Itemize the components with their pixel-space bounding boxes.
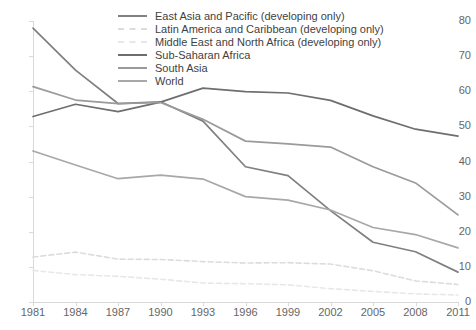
legend-item-3[interactable]: Sub-Saharan Africa <box>118 49 384 61</box>
legend-item-1[interactable]: Latin America and Caribbean (developing … <box>118 23 384 35</box>
legend-swatch-icon <box>118 28 147 30</box>
legend-item-2[interactable]: Middle East and North Africa (developing… <box>118 36 384 48</box>
legend-label: World <box>155 75 184 87</box>
legend-item-0[interactable]: East Asia and Pacific (developing only) <box>118 10 384 22</box>
legend-swatch-icon <box>118 67 147 69</box>
series-line-2 <box>33 270 458 295</box>
legend-swatch-icon <box>118 80 147 82</box>
legend-swatch-icon <box>118 41 147 43</box>
series-line-5 <box>33 151 458 248</box>
legend-label: Latin America and Caribbean (developing … <box>155 23 384 35</box>
legend-label: East Asia and Pacific (developing only) <box>155 10 345 22</box>
legend-label: South Asia <box>155 62 208 74</box>
legend-label: Middle East and North Africa (developing… <box>155 36 381 48</box>
chart-legend: East Asia and Pacific (developing only)L… <box>118 10 384 87</box>
series-line-3 <box>33 88 458 136</box>
legend-item-4[interactable]: South Asia <box>118 62 384 74</box>
legend-swatch-icon <box>118 54 147 56</box>
legend-label: Sub-Saharan Africa <box>155 49 250 61</box>
legend-item-5[interactable]: World <box>118 75 384 87</box>
series-line-1 <box>33 252 458 284</box>
series-line-4 <box>33 87 458 215</box>
legend-swatch-icon <box>118 15 147 17</box>
